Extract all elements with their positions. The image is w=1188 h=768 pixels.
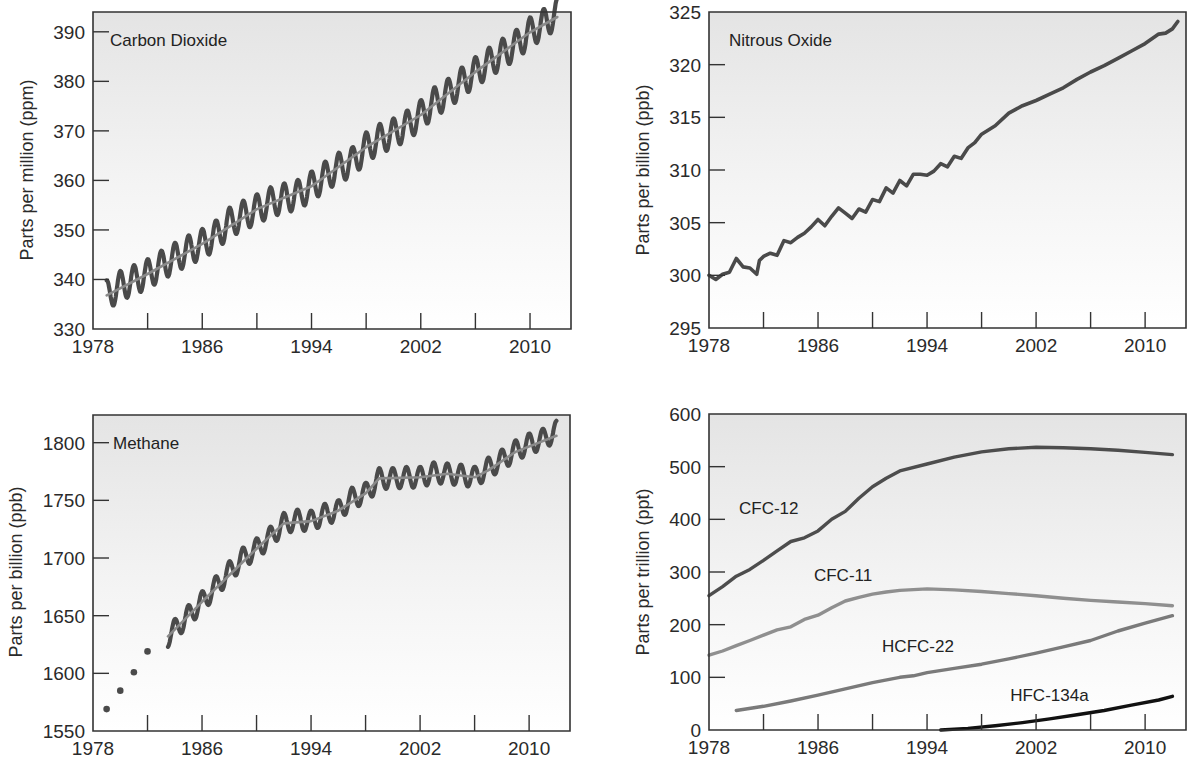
x-tick-label: 1994 <box>906 737 949 758</box>
panel-nitrous-oxide: 295300305310315320325 197819861994200220… <box>633 2 1186 356</box>
y-tick-label: 390 <box>53 22 85 43</box>
data-point <box>131 669 138 676</box>
x-tick-label: 2002 <box>1015 737 1057 758</box>
y-tick-label: 1600 <box>43 663 85 684</box>
series-label-hcfc-22: HCFC-22 <box>882 637 954 656</box>
x-tick-label: 1986 <box>797 737 839 758</box>
y-tick-label: 350 <box>53 220 85 241</box>
x-tick-label: 2002 <box>400 336 442 357</box>
y-tick-label: 380 <box>53 71 85 92</box>
x-tick-label: 1986 <box>181 738 223 759</box>
y-tick-label: 600 <box>669 404 701 425</box>
y-axis-title: Parts per billion (ppb) <box>6 486 26 657</box>
x-tick-label: 2002 <box>1015 335 1057 356</box>
y-tick-label: 300 <box>669 265 701 286</box>
x-tick-label: 1978 <box>72 738 114 759</box>
y-axis-title: Parts per million (ppm) <box>17 79 37 260</box>
x-tick-label: 1994 <box>290 738 333 759</box>
data-point <box>117 687 124 694</box>
y-tick-label: 325 <box>669 2 701 23</box>
y-tick-label: 340 <box>53 269 85 290</box>
y-tick-label: 500 <box>669 457 701 478</box>
x-tick-label: 1994 <box>290 336 333 357</box>
panel-title: Methane <box>113 434 179 453</box>
y-tick-label: 1700 <box>43 548 85 569</box>
x-tick-label: 2010 <box>508 738 550 759</box>
data-point <box>103 706 110 713</box>
panel-halocarbons: 0100200300400500600 19781986199420022010… <box>633 404 1186 758</box>
y-tick-label: 315 <box>669 107 701 128</box>
y-tick-label: 305 <box>669 213 701 234</box>
x-tick-label: 1978 <box>688 335 730 356</box>
x-tick-label: 2010 <box>1124 335 1166 356</box>
panel-carbon-dioxide: 330340350360370380390 197819861994200220… <box>17 0 571 357</box>
x-tick-label: 1978 <box>688 737 730 758</box>
x-tick-label: 1994 <box>906 335 949 356</box>
series-label-cfc-12: CFC-12 <box>739 499 799 518</box>
x-tick-label: 1978 <box>72 336 114 357</box>
panel-title: Carbon Dioxide <box>110 31 227 50</box>
y-tick-label: 100 <box>669 667 701 688</box>
series-label-cfc-11: CFC-11 <box>814 566 872 585</box>
figure-canvas: 330340350360370380390 197819861994200220… <box>0 0 1188 768</box>
y-axis-title: Parts per trillion (ppt) <box>633 488 653 655</box>
y-tick-label: 320 <box>669 55 701 76</box>
panel-title: Nitrous Oxide <box>729 31 832 50</box>
x-tick-label: 2002 <box>399 738 441 759</box>
y-tick-label: 370 <box>53 121 85 142</box>
series-label-hfc-134a: HFC-134a <box>1010 686 1089 705</box>
panel-methane: 155016001650170017501800 197819861994200… <box>6 415 570 759</box>
plot-area <box>709 414 1186 730</box>
y-tick-label: 1750 <box>43 490 85 511</box>
data-point <box>144 648 151 655</box>
y-tick-label: 300 <box>669 562 701 583</box>
y-axis-title: Parts per billion (ppb) <box>633 84 653 255</box>
y-tick-label: 200 <box>669 615 701 636</box>
y-tick-label: 1800 <box>43 433 85 454</box>
y-tick-label: 360 <box>53 170 85 191</box>
y-tick-label: 310 <box>669 160 701 181</box>
y-tick-label: 400 <box>669 509 701 530</box>
x-tick-label: 2010 <box>509 336 551 357</box>
x-tick-label: 2010 <box>1124 737 1166 758</box>
y-tick-label: 1650 <box>43 606 85 627</box>
x-tick-label: 1986 <box>181 336 223 357</box>
x-tick-label: 1986 <box>797 335 839 356</box>
